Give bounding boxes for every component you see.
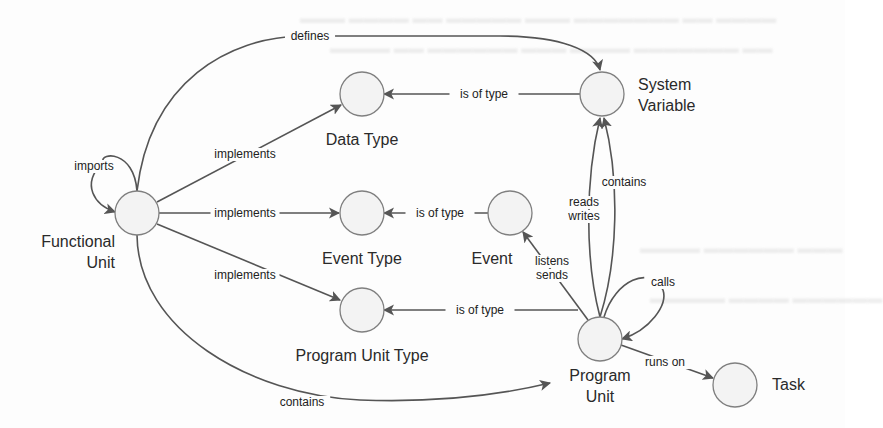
- edge-label-fu-impl-et: implements: [214, 206, 275, 220]
- node-label-program-unit: Unit: [586, 388, 615, 405]
- node-label-functional-unit: Functional: [41, 233, 115, 250]
- node-label-program-unit-type: Program Unit Type: [295, 347, 428, 364]
- node-data-type: [340, 72, 384, 116]
- node-system-variable: [580, 72, 624, 116]
- edge-label-pu-ls-ev: sends: [536, 268, 568, 282]
- node-label-system-variable: System: [638, 76, 691, 93]
- edge-label-pu-rw-sv: reads: [569, 195, 599, 209]
- node-task: [713, 363, 757, 407]
- edge-label-pu-runs-task: runs on: [645, 355, 685, 369]
- edge-label-pu-rw-sv: writes: [567, 209, 599, 223]
- edge-label-pu-contains-sv: contains: [602, 175, 647, 189]
- edge-label-fu-imports: imports: [74, 159, 113, 173]
- node-functional-unit: [115, 191, 159, 235]
- node-label-event: Event: [472, 250, 513, 267]
- edge-label-ev-type-et: is of type: [416, 206, 464, 220]
- node-event: [488, 191, 532, 235]
- edge-label-pu-ls-ev: listens: [535, 254, 569, 268]
- edge-label-fu-impl-dt: implements: [214, 147, 275, 161]
- node-label-task: Task: [772, 376, 806, 393]
- node-program-unit-type: [340, 288, 384, 332]
- node-label-event-type: Event Type: [322, 250, 402, 267]
- edge-label-sv-type-dt: is of type: [460, 87, 508, 101]
- edge-label-pu-calls: calls: [651, 275, 675, 289]
- node-event-type: [340, 191, 384, 235]
- edge-fu-impl-put: [157, 224, 340, 300]
- edge-label-pu-type-put: is of type: [456, 303, 504, 317]
- node-program-unit: [578, 317, 622, 361]
- edge-label-fu-impl-put: implements: [214, 268, 275, 282]
- node-label-functional-unit: Unit: [87, 254, 116, 271]
- edge-label-fu-defines-sv: defines: [291, 29, 330, 43]
- edge-label-fu-contains-pu: contains: [280, 395, 325, 409]
- node-label-program-unit: Program: [569, 367, 630, 384]
- node-label-data-type: Data Type: [326, 131, 399, 148]
- node-label-system-variable: Variable: [638, 97, 696, 114]
